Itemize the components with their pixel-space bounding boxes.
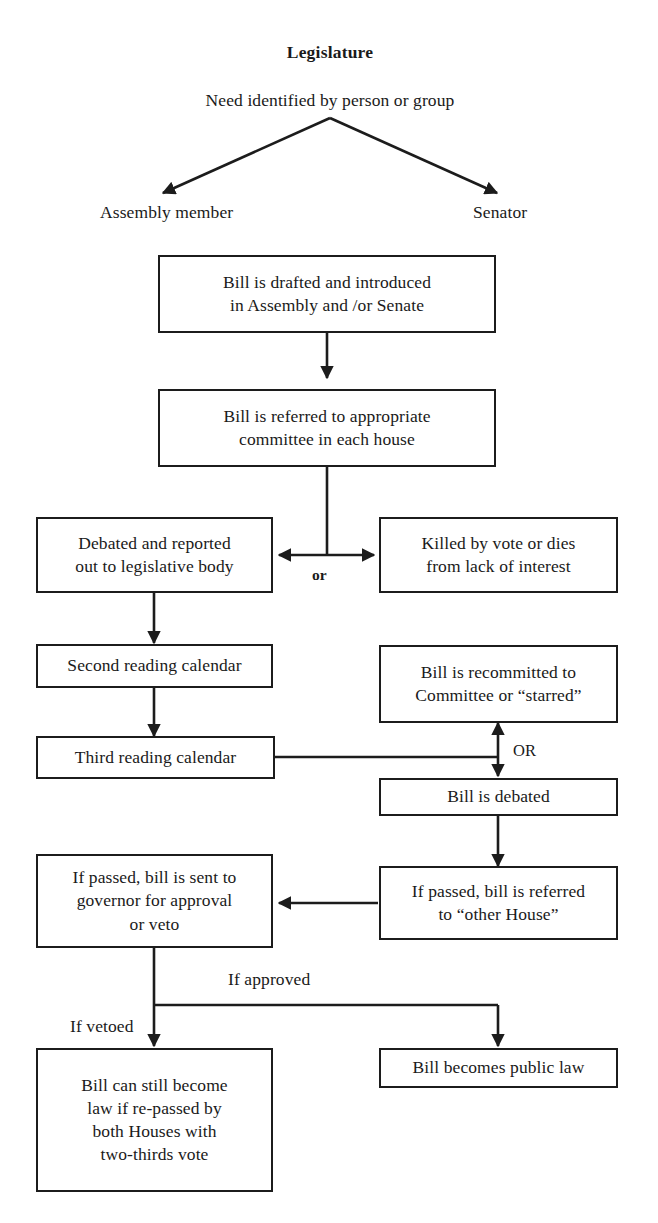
node-third-reading-calendar: Third reading calendar [36, 736, 275, 779]
node-bill-recommitted-line1: Bill is recommitted to [415, 661, 581, 684]
node-second-reading-calendar-line1: Second reading calendar [67, 654, 241, 677]
node-bill-is-debated: Bill is debated [379, 778, 618, 816]
node-repassed-line4: two-thirds vote [81, 1143, 227, 1166]
node-referred-other-house: If passed, bill is referred to “other Ho… [379, 866, 618, 940]
flowchart-canvas: Legislature Need identified by person or… [0, 0, 658, 1223]
edge-need-to-assembly [163, 118, 330, 193]
node-bill-drafted: Bill is drafted and introduced in Assemb… [158, 255, 496, 333]
actor-senator: Senator [473, 202, 527, 224]
node-killed-by-vote: Killed by vote or dies from lack of inte… [379, 517, 618, 593]
edge-need-to-senator [330, 118, 497, 193]
node-bill-referred-line2: committee in each house [223, 428, 430, 451]
node-referred-other-house-line2: to “other House” [412, 903, 585, 926]
origin-text: Need identified by person or group [206, 90, 455, 112]
node-bill-becomes-public-law: Bill becomes public law [379, 1048, 618, 1088]
node-debated-and-reported-line2: out to legislative body [75, 555, 233, 578]
node-bill-drafted-line1: Bill is drafted and introduced [223, 271, 431, 294]
node-bill-referred-line1: Bill is referred to appropriate [223, 405, 430, 428]
node-bill-recommitted: Bill is recommitted to Committee or “sta… [379, 645, 618, 723]
node-bill-referred: Bill is referred to appropriate committe… [158, 389, 496, 467]
node-repassed-line1: Bill can still become [81, 1074, 227, 1097]
edge-label-if-vetoed: If vetoed [70, 1016, 134, 1038]
node-sent-to-governor-line1: If passed, bill is sent to [73, 866, 237, 889]
node-referred-other-house-line1: If passed, bill is referred [412, 880, 585, 903]
node-sent-to-governor-line2: governor for approval [73, 889, 237, 912]
node-repassed-two-thirds: Bill can still become law if re-passed b… [36, 1048, 273, 1192]
edge-label-or-upper: OR [513, 741, 536, 761]
actor-assembly-member: Assembly member [100, 202, 233, 224]
node-bill-becomes-public-law-line1: Bill becomes public law [413, 1056, 585, 1079]
edge-label-or-lower: or [312, 566, 327, 584]
node-debated-and-reported: Debated and reported out to legislative … [36, 517, 273, 593]
node-sent-to-governor-line3: or veto [73, 913, 237, 936]
diagram-title: Legislature [287, 42, 373, 63]
node-repassed-line3: both Houses with [81, 1120, 227, 1143]
node-repassed-line2: law if re-passed by [81, 1097, 227, 1120]
node-sent-to-governor: If passed, bill is sent to governor for … [36, 854, 273, 948]
node-bill-is-debated-line1: Bill is debated [447, 785, 550, 808]
node-second-reading-calendar: Second reading calendar [36, 644, 273, 688]
edge-label-if-approved: If approved [228, 969, 310, 991]
node-bill-recommitted-line2: Committee or “starred” [415, 684, 581, 707]
node-killed-by-vote-line1: Killed by vote or dies [422, 532, 576, 555]
connector-layer [0, 0, 658, 1223]
node-killed-by-vote-line2: from lack of interest [422, 555, 576, 578]
node-debated-and-reported-line1: Debated and reported [75, 532, 233, 555]
node-bill-drafted-line2: in Assembly and /or Senate [223, 294, 431, 317]
node-third-reading-calendar-line1: Third reading calendar [75, 746, 237, 769]
